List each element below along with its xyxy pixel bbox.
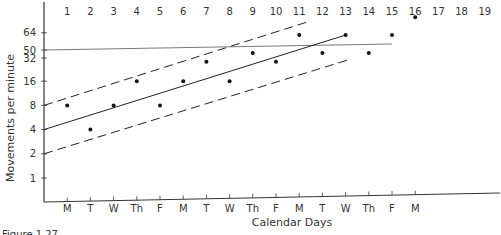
weekday-label: M (63, 203, 72, 214)
y-tick-label: 1 (30, 173, 36, 184)
weekday-label: Th (246, 203, 259, 214)
data-point (204, 60, 208, 64)
weekday-label: F (273, 203, 279, 214)
upper-bound (44, 21, 311, 106)
data-point (251, 51, 255, 55)
weekday-label: T (318, 203, 326, 214)
day-number-label: 9 (250, 6, 256, 17)
lower-bound (44, 59, 350, 154)
data-point (65, 103, 69, 107)
data-point (274, 60, 278, 64)
day-number-label: 1 (64, 6, 70, 17)
weekday-label: F (157, 203, 163, 214)
weekday-label: W (341, 203, 351, 214)
axes (44, 2, 500, 202)
day-number-label: 2 (87, 6, 93, 17)
y-tick-label: 16 (23, 76, 36, 87)
data-point (344, 33, 348, 37)
day-number-label: 6 (180, 6, 186, 17)
weekday-label: W (109, 203, 119, 214)
aim-line (44, 44, 392, 50)
day-number-label: 14 (362, 6, 375, 17)
day-number-label: 11 (293, 6, 306, 17)
trend-lines (44, 21, 392, 154)
y-tick-label: 8 (30, 100, 36, 111)
day-number-label: 13 (339, 6, 352, 17)
weekday-label: T (202, 203, 210, 214)
y-tick-label: 4 (30, 124, 36, 135)
data-point (367, 51, 371, 55)
data-point (112, 103, 116, 107)
day-number-label: 8 (226, 6, 232, 17)
day-number-label: 19 (478, 6, 491, 17)
weekday-label: W (225, 203, 235, 214)
y-tick-label: 50 (23, 45, 36, 56)
day-number-label: 12 (316, 6, 329, 17)
data-point (135, 79, 139, 83)
day-number-label: 15 (386, 6, 399, 17)
data-point (297, 33, 301, 37)
data-point (320, 51, 324, 55)
data-point (228, 79, 232, 83)
day-number-label: 7 (203, 6, 209, 17)
day-number-labels: 12345678910111213141516171819 (64, 6, 491, 17)
data-points (65, 15, 417, 131)
figure-caption: Figure 1.27 (2, 229, 58, 235)
y-tick-label: 64 (23, 27, 36, 38)
weekday-label: Th (362, 203, 375, 214)
day-number-label: 18 (455, 6, 468, 17)
data-point (390, 33, 394, 37)
data-point (88, 128, 92, 132)
weekday-label: T (86, 203, 94, 214)
day-number-label: 3 (110, 6, 116, 17)
weekday-label: M (411, 203, 420, 214)
day-number-label: 10 (270, 6, 283, 17)
x-axis-weekday-labels: MTWThFMTWThFMTWThFM (63, 191, 420, 214)
weekday-label: M (295, 203, 304, 214)
data-point (181, 79, 185, 83)
y-axis-title: Movements per minute (4, 54, 17, 182)
day-number-label: 4 (134, 6, 140, 17)
day-number-label: 5 (157, 6, 163, 17)
y-tick-label: 2 (30, 148, 36, 159)
data-point (413, 15, 417, 19)
day-number-label: 17 (432, 6, 445, 17)
chart-figure: 124816325064 123456789101112131415161718… (0, 0, 501, 235)
weekday-label: M (179, 203, 188, 214)
weekday-label: Th (130, 203, 143, 214)
x-axis-title: Calendar Days (252, 216, 333, 229)
data-point (158, 103, 162, 107)
weekday-label: F (389, 203, 395, 214)
